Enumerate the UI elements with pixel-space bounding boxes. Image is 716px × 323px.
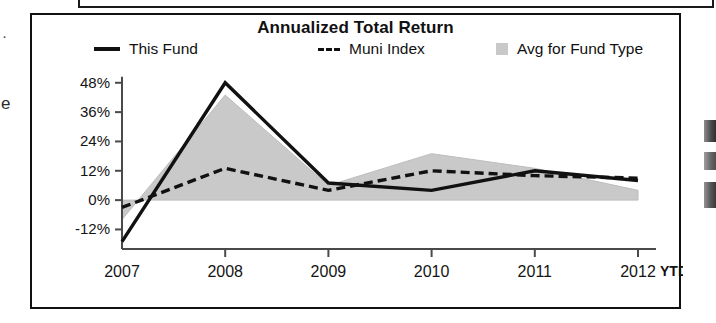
x-axis-tick-label: 2009 bbox=[311, 263, 347, 280]
y-axis-tick-label: 0% bbox=[88, 191, 110, 208]
x-axis-tick-label: 2008 bbox=[207, 263, 243, 280]
scan-artifact-right-smudge-lower bbox=[704, 182, 716, 208]
y-axis-tick-label: 48% bbox=[80, 74, 110, 91]
y-axis-tick-label: -12% bbox=[75, 220, 110, 237]
scan-artifact-left-text-fragment-top: · bbox=[2, 28, 7, 43]
series-avg-for-fund-type-area bbox=[122, 95, 638, 220]
scan-artifact-right-smudge-middle bbox=[704, 152, 716, 170]
y-axis-tick-label: 12% bbox=[80, 162, 110, 179]
x-axis-tick-label: 2012 bbox=[620, 263, 656, 280]
y-axis-tick-label: 36% bbox=[80, 103, 110, 120]
x-axis-tick-label: 2007 bbox=[104, 263, 140, 280]
x-axis-tick-label: 2010 bbox=[414, 263, 450, 280]
y-axis-tick-label: 24% bbox=[80, 132, 110, 149]
plot-area: 48%36%24%12%0%-12%2007200820092010201120… bbox=[32, 15, 683, 311]
scan-artifact-right-smudge-upper bbox=[704, 120, 716, 142]
scan-artifact-left-text-fragment-bottom: e bbox=[1, 95, 10, 112]
annualized-total-return-chart-card: Annualized Total Return This Fund Muni I… bbox=[30, 13, 681, 309]
scan-artifact-top-box bbox=[78, 0, 714, 8]
x-axis-ytd-label: YTD bbox=[660, 263, 683, 279]
series-area-avg-for-fund-type bbox=[122, 95, 638, 220]
x-axis-tick-label: 2011 bbox=[518, 263, 553, 280]
